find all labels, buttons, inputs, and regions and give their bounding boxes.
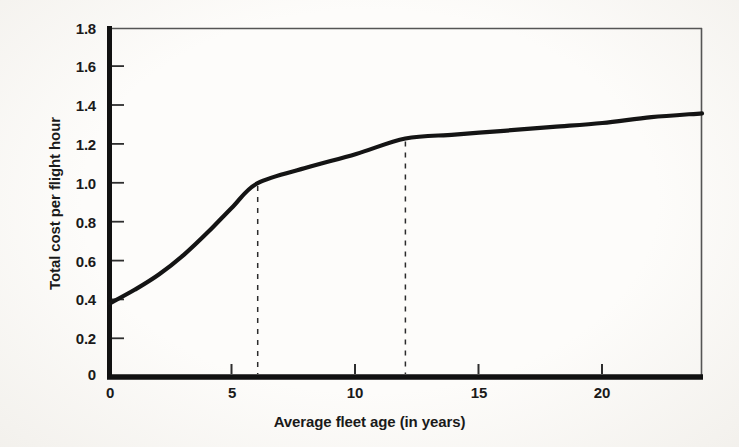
x-axis-title: Average fleet age (in years) <box>0 413 739 430</box>
y-tick-label-0: 0 <box>44 366 96 383</box>
y-tick-label-1-6: 1.6 <box>44 58 96 75</box>
x-tick-label-5: 5 <box>228 384 236 401</box>
chart-figure: 1.8 1.6 1.4 1.2 1.0 0.8 0.6 0.4 0.2 0 0 … <box>0 0 739 447</box>
plot-canvas <box>0 0 739 447</box>
y-tick-label-1-8: 1.8 <box>44 20 96 37</box>
y-axis-title: Total cost per flight hour <box>46 89 63 319</box>
y-tick-label-0-2: 0.2 <box>44 330 96 347</box>
x-tick-label-0: 0 <box>106 384 114 401</box>
x-tick-label-10: 10 <box>347 384 363 401</box>
x-tick-label-20: 20 <box>594 384 610 401</box>
x-axis-ticks <box>232 364 603 374</box>
x-tick-label-15: 15 <box>471 384 487 401</box>
